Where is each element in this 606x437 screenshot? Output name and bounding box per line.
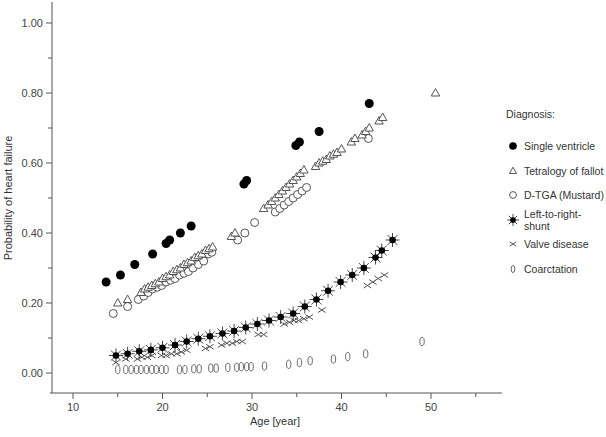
data-point — [334, 275, 348, 289]
legend-item: Single ventricle — [506, 134, 606, 159]
data-point — [308, 357, 312, 365]
data-point — [249, 363, 253, 371]
data-point — [215, 326, 229, 340]
x-axis-title: Age [year] — [250, 415, 300, 427]
legend-label: Left-to-right-shunt — [524, 208, 606, 232]
data-point — [116, 271, 125, 280]
data-point — [123, 295, 131, 303]
data-point — [192, 365, 196, 373]
x-axis: 1020304050 Age [year] — [50, 393, 502, 427]
data-point — [209, 364, 213, 372]
legend-item: Valve disease — [506, 232, 606, 257]
data-point — [124, 303, 132, 311]
data-point — [309, 293, 323, 307]
data-point — [134, 365, 138, 373]
data-point — [159, 365, 163, 373]
legend: Diagnosis: Single ventricleTetralogy of … — [506, 108, 606, 281]
data-point — [346, 352, 350, 360]
series-single-ventricle — [102, 99, 374, 287]
x-tick-label: 10 — [67, 401, 79, 413]
x-tick-label: 40 — [335, 401, 347, 413]
data-point — [235, 363, 239, 371]
y-tick-label: 0.80 — [22, 87, 43, 99]
data-point — [260, 332, 268, 337]
y-tick-label: 0.60 — [22, 157, 43, 169]
legend-label: Single ventricle — [524, 140, 595, 152]
data-point — [274, 310, 288, 324]
data-point — [363, 350, 367, 358]
open-triangle-marker-icon — [506, 164, 520, 178]
legend-label: Valve disease — [524, 238, 589, 250]
data-point — [262, 362, 266, 370]
data-point — [226, 363, 230, 371]
data-point — [130, 260, 139, 269]
data-point — [241, 229, 249, 237]
data-point — [109, 310, 117, 318]
y-tick-label: 0.00 — [22, 367, 43, 379]
legend-label: Coarctation — [524, 263, 578, 275]
data-point — [144, 343, 158, 357]
data-point — [187, 222, 196, 231]
data-point — [109, 349, 123, 363]
y-tick-label: 0.20 — [22, 297, 43, 309]
data-point — [386, 233, 400, 247]
data-point — [321, 284, 335, 298]
data-point — [150, 365, 154, 373]
data-point — [244, 363, 248, 371]
data-point — [381, 273, 389, 278]
data-point — [239, 363, 243, 371]
data-point — [183, 365, 187, 373]
data-point — [148, 250, 157, 259]
data-point — [156, 341, 170, 355]
data-point — [337, 145, 345, 153]
legend-label: D-TGA (Mustard) — [524, 189, 604, 201]
x-tick-label: 20 — [156, 401, 168, 413]
data-point — [124, 365, 128, 373]
data-point — [374, 276, 382, 281]
data-point — [176, 229, 185, 238]
y-tick-label: 1.00 — [22, 17, 43, 29]
data-point — [116, 365, 120, 373]
y-axis: 0.000.200.400.600.801.00 Probability of … — [2, 2, 52, 393]
filled-star-marker-icon — [506, 213, 520, 227]
data-point — [375, 244, 389, 258]
filled-circle-marker-icon — [506, 139, 520, 153]
data-point — [295, 138, 304, 147]
open-circle-marker-icon — [506, 188, 520, 202]
data-point — [129, 365, 133, 373]
data-point — [420, 337, 424, 345]
data-point — [132, 344, 146, 358]
data-point — [121, 347, 135, 361]
data-point — [365, 99, 374, 108]
data-point — [303, 184, 311, 192]
data-point — [318, 308, 326, 313]
data-point — [431, 89, 439, 97]
legend-item: D-TGA (Mustard) — [506, 183, 606, 208]
data-point — [227, 324, 241, 338]
data-point — [164, 365, 168, 373]
data-point — [262, 314, 276, 328]
y-tick-label: 0.40 — [22, 227, 43, 239]
data-point — [197, 365, 201, 373]
data-point — [139, 365, 143, 373]
cross-x-marker-icon — [506, 237, 520, 251]
legend-item: Coarctation — [506, 257, 606, 282]
data-point — [286, 360, 290, 368]
x-tick-label: 30 — [246, 401, 258, 413]
legend-item: Left-to-right-shunt — [506, 208, 606, 233]
data-point — [168, 338, 182, 352]
data-point — [144, 365, 148, 373]
data-point — [239, 321, 253, 335]
data-point — [165, 236, 174, 245]
data-point — [251, 219, 259, 227]
data-point — [286, 307, 300, 321]
data-point — [238, 339, 246, 344]
data-point — [298, 300, 312, 314]
open-ellipse-marker-icon — [506, 262, 520, 276]
data-points — [102, 89, 440, 374]
data-point — [177, 365, 181, 373]
x-tick-label: 50 — [425, 401, 437, 413]
data-point — [345, 268, 359, 282]
data-point — [357, 261, 371, 275]
data-point — [203, 329, 217, 343]
